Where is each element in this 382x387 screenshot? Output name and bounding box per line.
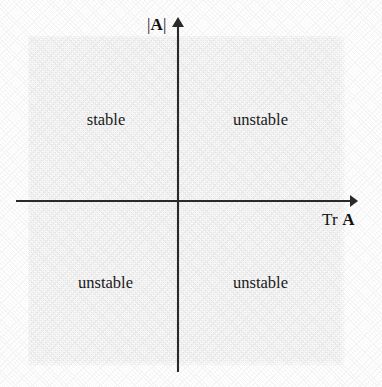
y-axis-label-suffix: |	[163, 15, 167, 34]
x-axis-label-prefix: Tr	[322, 210, 342, 229]
axes-group	[0, 0, 382, 387]
region-label-top-left: stable	[56, 112, 156, 129]
y-axis-label: |A|	[147, 16, 167, 33]
region-label-bottom-left: unstable	[48, 275, 163, 292]
right-arrow-icon	[350, 195, 358, 207]
y-axis-label-symbol: A	[151, 15, 163, 34]
region-label-bottom-right: unstable	[203, 275, 318, 292]
region-label-top-right: unstable	[203, 112, 318, 129]
stability-quadrant-figure: |A| Tr A stable unstable unstable unstab…	[0, 0, 382, 387]
up-arrow-icon	[172, 17, 184, 27]
x-axis-label-symbol: A	[342, 210, 354, 229]
x-axis-label: Tr A	[322, 211, 355, 228]
